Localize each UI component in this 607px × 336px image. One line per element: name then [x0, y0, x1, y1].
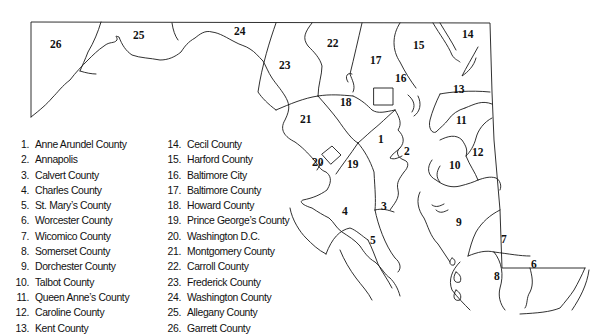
legend-label: Harford County: [187, 152, 253, 167]
legend-number: 4.: [8, 183, 29, 198]
legend-item: 16.Baltimore City: [160, 168, 289, 183]
legend-number: 1.: [8, 137, 29, 152]
region-label-5: 5: [370, 234, 376, 246]
legend-number: 17.: [160, 183, 181, 198]
legend-item: 19.Prince George’s County: [160, 213, 289, 228]
region-label-26: 26: [50, 38, 62, 50]
region-label-18: 18: [340, 96, 352, 108]
region-label-3: 3: [381, 200, 387, 212]
legend-item: 10.Talbot County: [8, 275, 129, 290]
legend-label: Calvert County: [35, 168, 99, 183]
legend-number: 13.: [8, 321, 29, 336]
legend-item: 9.Dorchester County: [8, 259, 129, 274]
region-label-6: 6: [531, 258, 537, 270]
legend-number: 24.: [160, 290, 181, 305]
legend-item: 15.Harford County: [160, 152, 289, 167]
legend-item: 5.St. Mary’s County: [8, 198, 129, 213]
legend-label: Washington County: [187, 290, 271, 305]
legend-item: 11.Queen Anne’s County: [8, 290, 129, 305]
legend-number: 20.: [160, 229, 181, 244]
legend-item: 13.Kent County: [8, 321, 129, 336]
region-label-10: 10: [449, 159, 461, 171]
region-label-17: 17: [370, 54, 382, 66]
legend-item: 18.Howard County: [160, 198, 289, 213]
region-label-14: 14: [462, 28, 474, 40]
legend-item: 25.Allegany County: [160, 305, 289, 320]
region-label-11: 11: [456, 114, 467, 126]
legend-number: 5.: [8, 198, 29, 213]
legend-label: Caroline County: [35, 305, 104, 320]
legend-label: Talbot County: [35, 275, 94, 290]
legend-number: 7.: [8, 229, 29, 244]
legend-label: Carroll County: [187, 259, 249, 274]
legend-item: 20.Washington D.C.: [160, 229, 289, 244]
legend-label: Kent County: [35, 321, 88, 336]
legend-label: Washington D.C.: [187, 229, 260, 244]
legend-label: Worcester County: [35, 213, 112, 228]
legend-item: 23.Frederick County: [160, 275, 289, 290]
region-label-12: 12: [472, 146, 484, 158]
legend-item: 14.Cecil County: [160, 137, 289, 152]
legend-number: 12.: [8, 305, 29, 320]
legend-item: 7.Wicomico County: [8, 229, 129, 244]
legend-label: St. Mary’s County: [35, 198, 111, 213]
region-label-19: 19: [347, 158, 359, 170]
legend-number: 11.: [8, 290, 29, 305]
legend-item: 17.Baltimore County: [160, 183, 289, 198]
legend-number: 22.: [160, 259, 181, 274]
legend-label: Howard County: [187, 198, 254, 213]
legend-column-2: 14.Cecil County 15.Harford County 16.Bal…: [160, 137, 289, 336]
region-label-20: 20: [312, 156, 324, 168]
legend-label: Wicomico County: [35, 229, 111, 244]
region-label-25: 25: [133, 29, 145, 41]
region-label-24: 24: [234, 25, 246, 37]
legend-item: 2.Annapolis: [8, 152, 129, 167]
region-label-21: 21: [300, 113, 312, 125]
legend-label: Allegany County: [187, 305, 257, 320]
legend-number: 21.: [160, 244, 181, 259]
region-label-2: 2: [404, 145, 410, 157]
legend-item: 21.Montgomery County: [160, 244, 289, 259]
legend-number: 18.: [160, 198, 181, 213]
legend-number: 2.: [8, 152, 29, 167]
star-icon: [328, 152, 337, 160]
legend-item: 3.Calvert County: [8, 168, 129, 183]
legend-item: 26.Garrett County: [160, 321, 289, 336]
legend-label: Cecil County: [187, 137, 242, 152]
legend-label: Baltimore City: [187, 168, 247, 183]
region-label-4: 4: [342, 205, 348, 217]
legend-label: Queen Anne’s County: [35, 290, 129, 305]
region-label-16: 16: [395, 72, 407, 84]
legend-item: 22.Carroll County: [160, 259, 289, 274]
legend-label: Anne Arundel County: [35, 137, 127, 152]
legend-column-1: 1.Anne Arundel County 2.Annapolis 3.Calv…: [8, 137, 129, 336]
legend-label: Charles County: [35, 183, 102, 198]
region-label-22: 22: [327, 37, 339, 49]
legend-number: 19.: [160, 213, 181, 228]
legend-number: 9.: [8, 259, 29, 274]
region-label-1: 1: [378, 133, 384, 145]
legend-label: Prince George’s County: [187, 213, 289, 228]
legend-label: Dorchester County: [35, 259, 116, 274]
legend-item: 4.Charles County: [8, 183, 129, 198]
region-label-23: 23: [279, 59, 291, 71]
legend-item: 24.Washington County: [160, 290, 289, 305]
region-label-15: 15: [413, 39, 425, 51]
legend-item: 12.Caroline County: [8, 305, 129, 320]
legend-number: 16.: [160, 168, 181, 183]
region-label-13: 13: [453, 83, 465, 95]
star-icon: [392, 147, 402, 156]
legend-number: 26.: [160, 321, 181, 336]
region-label-9: 9: [456, 216, 462, 228]
county-boundaries: [80, 22, 532, 310]
legend-number: 6.: [8, 213, 29, 228]
legend-label: Somerset County: [35, 244, 110, 259]
legend-number: 8.: [8, 244, 29, 259]
legend-number: 3.: [8, 168, 29, 183]
region-label-8: 8: [494, 270, 500, 282]
legend-label: Annapolis: [35, 152, 78, 167]
legend-item: 6.Worcester County: [8, 213, 129, 228]
legend-label: Montgomery County: [187, 244, 275, 259]
legend-label: Frederick County: [187, 275, 261, 290]
legend-number: 10.: [8, 275, 29, 290]
